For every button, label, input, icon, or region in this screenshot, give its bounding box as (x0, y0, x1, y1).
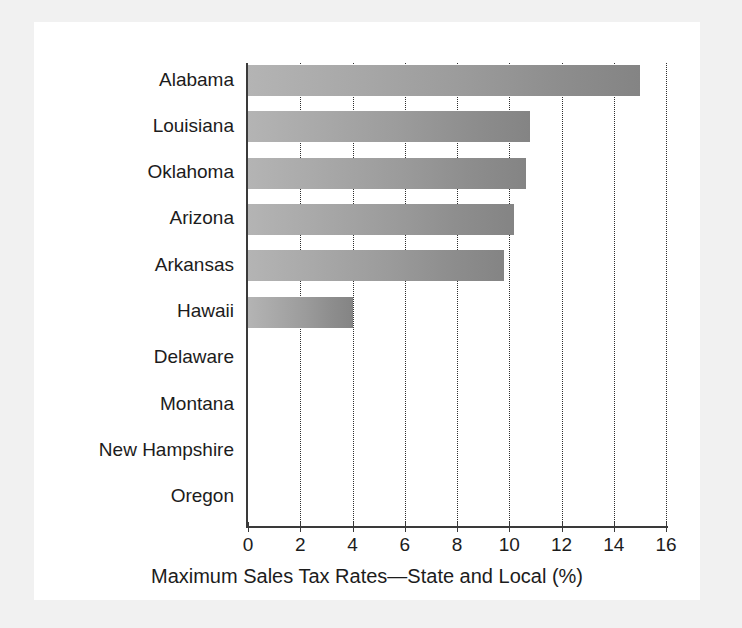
x-tick-label-12: 12 (532, 534, 592, 556)
bar-arizona (248, 204, 514, 235)
y-axis-line (246, 63, 248, 527)
y-label-arizona: Arizona (34, 207, 234, 229)
bar-louisiana (248, 111, 530, 142)
x-tick-label-16: 16 (636, 534, 696, 556)
gridline-12 (562, 63, 564, 526)
x-tick-label-0: 0 (218, 534, 278, 556)
bar-alabama (248, 65, 640, 96)
x-tick-mark-6 (405, 522, 406, 532)
x-tick-mark-8 (457, 522, 458, 532)
frame-band-right (700, 0, 742, 628)
x-tick-mark-12 (562, 522, 563, 532)
frame-band-top (0, 0, 742, 22)
y-label-montana: Montana (34, 393, 234, 415)
gridline-16 (666, 63, 668, 526)
x-tick-label-6: 6 (375, 534, 435, 556)
x-tick-label-2: 2 (270, 534, 330, 556)
bar-oklahoma (248, 158, 526, 189)
figure-frame: AlabamaLouisianaOklahomaArizonaArkansasH… (0, 0, 742, 628)
bar-hawaii (248, 297, 353, 328)
x-tick-label-8: 8 (427, 534, 487, 556)
plot-area: AlabamaLouisianaOklahomaArizonaArkansasH… (34, 22, 700, 600)
frame-band-left (0, 0, 34, 628)
x-tick-mark-2 (300, 522, 301, 532)
x-tick-label-14: 14 (584, 534, 644, 556)
frame-band-bottom (0, 600, 742, 628)
y-label-alabama: Alabama (34, 69, 234, 91)
bar-arkansas (248, 250, 504, 281)
x-tick-mark-16 (666, 522, 667, 532)
y-label-louisiana: Louisiana (34, 115, 234, 137)
y-label-hawaii: Hawaii (34, 300, 234, 322)
x-tick-label-10: 10 (479, 534, 539, 556)
x-axis-title: Maximum Sales Tax Rates—State and Local … (34, 565, 700, 588)
x-tick-label-4: 4 (323, 534, 383, 556)
y-label-new-hampshire: New Hampshire (34, 439, 234, 461)
chart-canvas: AlabamaLouisianaOklahomaArizonaArkansasH… (34, 22, 700, 600)
x-tick-mark-10 (509, 522, 510, 532)
y-label-delaware: Delaware (34, 346, 234, 368)
gridline-14 (614, 63, 616, 526)
x-tick-mark-14 (614, 522, 615, 532)
y-label-arkansas: Arkansas (34, 254, 234, 276)
y-label-oregon: Oregon (34, 485, 234, 507)
y-axis-category-labels: AlabamaLouisianaOklahomaArizonaArkansasH… (34, 22, 234, 600)
x-tick-mark-0 (248, 522, 249, 532)
y-label-oklahoma: Oklahoma (34, 161, 234, 183)
x-tick-mark-4 (353, 522, 354, 532)
